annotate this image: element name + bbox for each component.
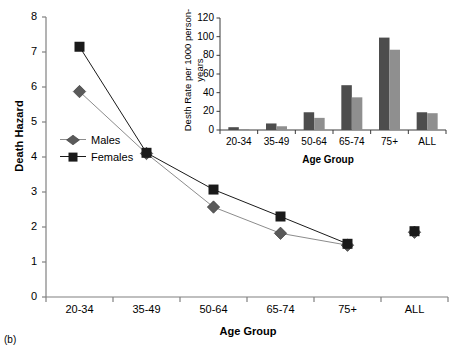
main-y-tick-label: 5	[15, 116, 37, 127]
main-x-tick-label: 65-74	[246, 303, 316, 315]
legend-label-females: Females	[91, 151, 133, 163]
main-y-tick-label: 4	[15, 151, 37, 162]
legend-marker-diamond-icon	[60, 133, 86, 147]
main-x-tick-label: ALL	[380, 303, 450, 315]
main-y-tick-label: 3	[15, 186, 37, 197]
inset-y-tick-label: 120	[190, 13, 214, 23]
figure-panel-b: Death Hazard Age Group Males	[0, 0, 453, 351]
main-x-tick-label: 20-34	[45, 303, 115, 315]
inset-y-tick-label: 60	[190, 69, 214, 79]
main-y-tick-label: 2	[15, 221, 37, 232]
main-x-tick-label: 35-49	[112, 303, 182, 315]
inset-bar-chart: Desth Rate per 1000 person-years Age Gro…	[178, 8, 450, 173]
main-x-tick-label: 50-64	[179, 303, 249, 315]
legend-marker-square-icon	[60, 150, 86, 164]
main-y-tick-label: 6	[15, 81, 37, 92]
legend: Males Females	[60, 131, 133, 165]
panel-label: (b)	[4, 334, 16, 345]
main-y-tick-label: 8	[15, 11, 37, 22]
main-y-tick-label: 7	[15, 46, 37, 57]
inset-y-tick-label: 40	[190, 88, 214, 98]
legend-item-females: Females	[60, 148, 133, 165]
inset-y-tick-label: 0	[190, 125, 214, 135]
main-y-tick-label: 1	[15, 256, 37, 267]
main-x-axis-title: Age Group	[48, 325, 448, 337]
main-y-tick-label: 0	[15, 291, 37, 302]
main-x-tick-label: 75+	[313, 303, 383, 315]
inset-y-tick-label: 20	[190, 106, 214, 116]
legend-label-males: Males	[91, 134, 120, 146]
inset-chart-canvas	[178, 8, 450, 173]
inset-x-tick-label: ALL	[403, 136, 451, 147]
legend-item-males: Males	[60, 131, 133, 148]
inset-x-axis-title: Age Group	[208, 154, 448, 165]
inset-y-tick-label: 80	[190, 50, 214, 60]
inset-y-tick-label: 100	[190, 32, 214, 42]
